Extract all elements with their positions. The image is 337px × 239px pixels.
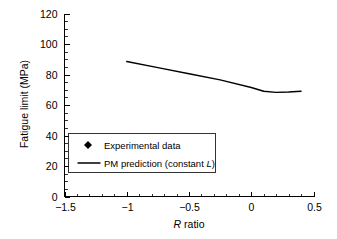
y-tick-label: 20 — [46, 160, 58, 172]
legend-label-experimental: Experimental data — [104, 140, 181, 151]
y-axis-title: Fatigue limit (MPa) — [18, 60, 30, 148]
y-tick-label: 80 — [46, 69, 58, 81]
y-tick-label: 120 — [40, 8, 58, 20]
y-tick-label: 100 — [40, 38, 58, 50]
chart-figure: 020406080100120 −1.5−1−0.500.5 Fatigue l… — [0, 0, 337, 239]
fatigue-limit-vs-r-ratio-chart: 020406080100120 −1.5−1−0.500.5 Fatigue l… — [0, 0, 337, 239]
y-axis-tick-labels: 020406080100120 — [40, 8, 58, 203]
legend-pm-prefix: PM prediction (constant — [104, 158, 206, 169]
x-axis-tick-labels: −1.5−1−0.500.5 — [55, 201, 322, 213]
x-tick-label: 0.5 — [307, 201, 322, 213]
x-tick-label: −1 — [122, 201, 134, 213]
y-tick-label: 40 — [46, 130, 58, 142]
pm-prediction-line — [127, 62, 301, 93]
x-tick-label: −0.5 — [179, 201, 200, 213]
legend-pm-suffix: ) — [212, 158, 215, 169]
x-axis-title-rest-part: ratio — [181, 218, 205, 230]
x-tick-label: 0 — [249, 201, 255, 213]
x-tick-label: −1.5 — [55, 201, 76, 213]
y-tick-label: 60 — [46, 99, 58, 111]
experimental-data-markers — [127, 0, 301, 96]
x-axis-title: R ratio — [174, 218, 205, 230]
chart-legend: Experimental data PM prediction (constan… — [69, 134, 216, 173]
legend-label-prediction: PM prediction (constant L) — [104, 158, 215, 169]
